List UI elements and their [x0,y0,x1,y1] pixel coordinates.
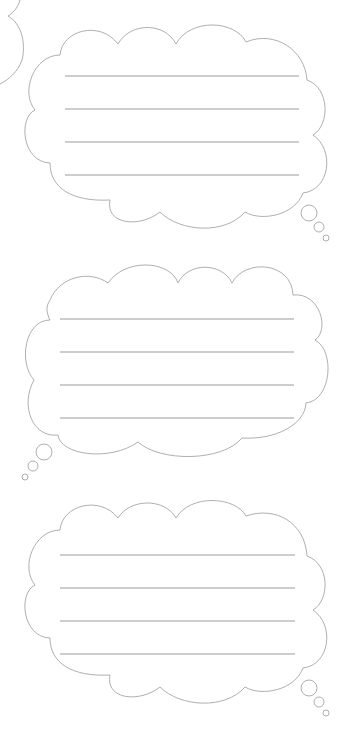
cloud-outline [25,501,327,704]
cloud-outline [25,265,328,457]
thought-dot-large [301,680,317,696]
thought-dot-medium [314,697,324,707]
thought-dot-small [323,235,329,241]
thought-bubble-3 [25,501,329,717]
cloud-outline [25,25,327,228]
thought-dot-medium [28,461,38,471]
thought-dot-small [323,710,329,716]
thought-dot-medium [314,222,324,232]
thought-dot-small [22,474,28,480]
thought-bubble-sheet [0,0,344,740]
thought-dot-large [301,205,317,221]
thought-dot-large [36,444,52,460]
thought-bubble-2 [22,265,328,480]
partial-cloud-edge [0,0,23,84]
thought-bubble-1 [25,25,329,241]
